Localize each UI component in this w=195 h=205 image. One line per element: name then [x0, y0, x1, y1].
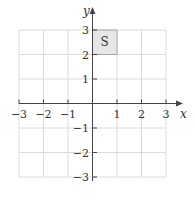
x-tick-label: 2: [138, 108, 145, 121]
y-tick-label: 2: [82, 49, 89, 62]
y-tick-label: 1: [82, 73, 89, 86]
x-axis-label: x: [180, 107, 187, 121]
x-tick-label: −2: [35, 108, 51, 121]
y-axis-label: y: [82, 4, 90, 18]
region-label-s: S: [100, 35, 108, 49]
x-tick-label: 1: [114, 108, 121, 121]
y-tick-label: 3: [82, 24, 89, 37]
y-tick-label: −1: [73, 122, 89, 135]
x-axis-arrow-icon: [176, 101, 183, 107]
y-axis-arrow-icon: [90, 7, 96, 14]
y-tick-label: −3: [73, 171, 89, 184]
coordinate-plane: −3 −2 −1 1 2 3 3 2 1 −1 −2 −3 x y S: [0, 0, 195, 205]
x-tick-label: −3: [11, 108, 27, 121]
y-tick-label: −2: [73, 147, 89, 160]
x-tick-label: −1: [60, 108, 76, 121]
x-tick-label: 3: [163, 108, 170, 121]
